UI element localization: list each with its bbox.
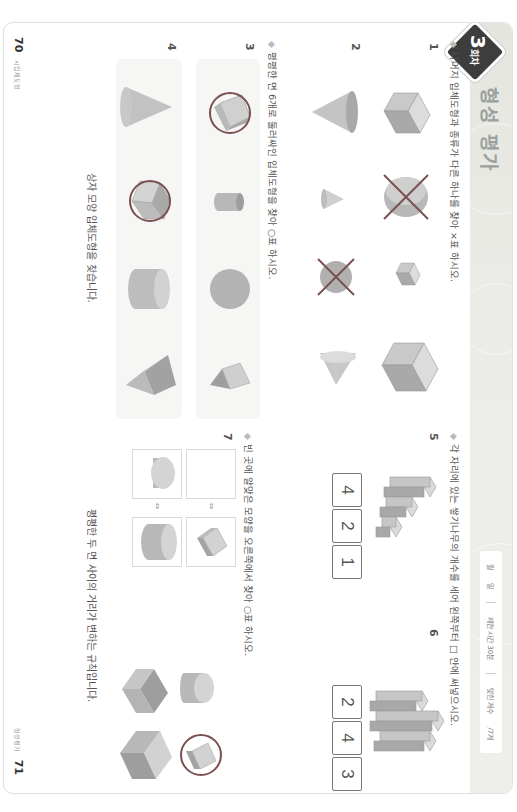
hint-left: 상자 모양 입체도형을 찾습니다.	[85, 173, 100, 303]
q7-blank-frame[interactable]	[186, 449, 236, 499]
question-5-number: 5	[427, 433, 440, 441]
badge-number: 3	[466, 35, 490, 49]
q3-shapes	[196, 63, 260, 423]
q1-shapes	[372, 63, 442, 423]
q6-answer-box-3[interactable]: 3	[332, 757, 362, 791]
question-4-number: 4	[165, 43, 178, 51]
cone-side-icon	[320, 351, 356, 385]
cylinder-crossed-icon	[384, 175, 428, 219]
q6-answer-box-1[interactable]: 2	[332, 685, 362, 719]
q4-shapes	[116, 63, 182, 423]
cone-icon	[120, 87, 172, 127]
q6-answer-box-2[interactable]: 4	[332, 721, 362, 755]
pyramid-icon	[126, 355, 176, 395]
session-badge-label: 3회차	[464, 31, 492, 69]
right-page-label: 형성평가	[14, 728, 21, 752]
diamond-bullet-icon: ◆	[449, 433, 459, 440]
score-total: /7개	[486, 727, 496, 740]
q5-stacked-cubes	[366, 473, 436, 573]
badge-suffix: 회차	[469, 49, 479, 65]
q7-options	[112, 663, 222, 793]
question-7-number: 7	[221, 433, 234, 441]
worksheet-spread: 3회차 형성 평가 월 일 제한 시간 30분 맞힌 개수 /7개 ◆나머지 입…	[0, 0, 517, 812]
divider	[486, 673, 496, 674]
diamond-bullet-icon: ◆	[267, 41, 277, 48]
instruction-3: ◆각 자리에 있는 쌓기나무의 개수를 세어 왼쪽부터 □ 안에 써넣으시오.	[448, 433, 462, 726]
q7-thin-box-frame	[186, 517, 236, 567]
small-cylinder-icon	[214, 193, 244, 211]
divider	[486, 602, 496, 603]
question-2-number: 2	[349, 43, 362, 51]
option-large-box-icon	[120, 731, 172, 779]
diamond-bullet-icon: ◆	[449, 41, 459, 48]
equals-arrow-icon: ⇔	[153, 503, 162, 510]
sphere-crossed-icon	[318, 259, 354, 295]
diamond-bullet-icon: ◆	[243, 433, 253, 440]
score-pill: 월 일 제한 시간 30분 맞힌 개수 /7개	[480, 551, 502, 753]
date-month: 월	[486, 564, 496, 570]
left-page-label: 시입체도형	[14, 60, 21, 90]
decor-swirl	[460, 283, 513, 355]
small-cube-icon	[396, 263, 420, 285]
q6-stacked-cubes	[364, 685, 444, 785]
q7-wide-cylinder-frame	[132, 517, 182, 567]
time-limit: 제한 시간 30분	[486, 617, 496, 660]
box-circled-icon	[210, 93, 250, 133]
sphere-icon	[210, 269, 250, 309]
small-cone-icon	[321, 189, 344, 209]
large-cube-icon	[382, 343, 438, 391]
thin-box-icon	[187, 518, 235, 566]
score-label: 맞힌 개수	[486, 688, 496, 714]
wide-cylinder-icon	[133, 518, 181, 566]
question-6-number: 6	[427, 629, 440, 637]
q2-shapes	[294, 63, 364, 423]
option-cylinder-icon	[180, 673, 214, 703]
instruction-2: ◆평평한 면 6개로 둘러싸인 입체도형을 찾아 ○표 하시오.	[266, 41, 280, 279]
pyramid-icon	[210, 363, 250, 389]
q5-answer-box-3[interactable]: 1	[332, 545, 362, 579]
footer-right: 형성평가71	[12, 728, 25, 775]
footer-left: 70시입체도형	[12, 37, 25, 90]
cube-icon	[384, 93, 430, 133]
instruction-4: ◆빈 곳에 알맞은 모양을 오른쪽에서 찾아 ○표 하시오.	[242, 433, 256, 656]
page-title: 형성 평가	[477, 87, 504, 172]
date-day: 일	[486, 583, 496, 589]
cylinder-icon	[128, 269, 170, 309]
instruction-1: ◆나머지 입체도형과 종류가 다른 하나를 찾아 ×표 하시오.	[448, 41, 462, 282]
question-3-number: 3	[243, 43, 256, 51]
q7-thin-cylinder-frame	[132, 449, 182, 499]
q5-answer-box-2[interactable]: 2	[332, 509, 362, 543]
cone-down-icon	[312, 91, 358, 133]
right-page-number: 71	[12, 760, 25, 775]
question-1-number: 1	[427, 43, 440, 51]
hint-right: 평평한 두 면 사이의 거리가 변하는 규칙입니다.	[85, 509, 100, 702]
thin-cylinder-icon	[133, 450, 181, 498]
option-thin-box-circled-icon	[181, 735, 221, 775]
cube-circled-icon	[130, 181, 170, 221]
equals-arrow-icon: ⇔	[207, 503, 216, 510]
left-page-number: 70	[12, 37, 25, 52]
worksheet-page: 3회차 형성 평가 월 일 제한 시간 30분 맞힌 개수 /7개 ◆나머지 입…	[3, 22, 513, 794]
q5-answer-box-1[interactable]: 4	[332, 473, 362, 507]
option-box-icon	[122, 669, 168, 713]
